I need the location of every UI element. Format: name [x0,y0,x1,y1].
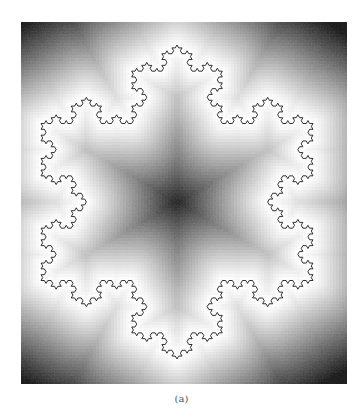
fractal-figure [21,22,347,384]
koch-snowflake-curve [21,22,347,384]
figure-caption: (a) [0,393,363,404]
koch-path [41,45,313,359]
